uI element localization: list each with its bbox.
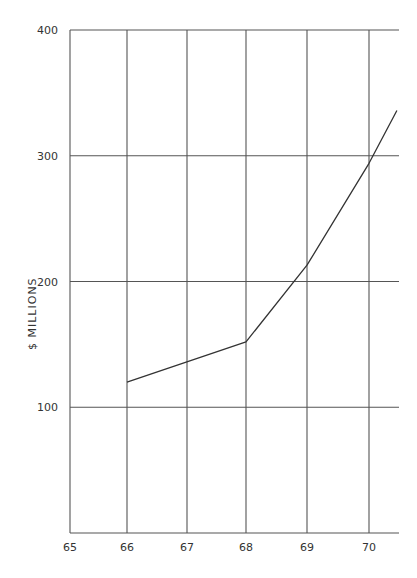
y-axis-label: $ MILLIONS	[26, 277, 39, 350]
x-axis-ticks: 656667686970	[63, 541, 376, 554]
x-tick-label: 67	[180, 541, 194, 554]
y-tick-label: 400	[37, 24, 58, 37]
chart-grid	[70, 30, 399, 533]
x-tick-label: 68	[239, 541, 253, 554]
x-tick-label: 70	[362, 541, 376, 554]
data-line	[127, 111, 397, 383]
y-tick-label: 200	[37, 276, 58, 289]
x-tick-label: 69	[300, 541, 314, 554]
y-axis-ticks: 100200300400	[37, 24, 58, 414]
x-tick-label: 65	[63, 541, 77, 554]
y-tick-label: 100	[37, 401, 58, 414]
line-chart: 100200300400 656667686970 $ MILLIONS	[0, 0, 417, 578]
x-tick-label: 66	[120, 541, 134, 554]
y-tick-label: 300	[37, 150, 58, 163]
